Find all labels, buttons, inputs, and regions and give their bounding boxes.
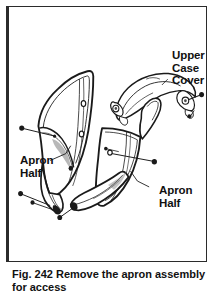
figure-caption-number: Fig. 242 [12, 268, 53, 280]
part-apron-half-left [18, 71, 93, 214]
figure-caption: Fig. 242Remove the apron assembly for ac… [12, 268, 207, 294]
figure-frame: Upper Case Cover Apron Half Apron Half [6, 6, 207, 262]
label-upper-case-cover: Upper Case Cover [172, 49, 205, 87]
label-apron-half-left: Apron Half [20, 154, 53, 179]
label-apron-half-right: Apron Half [159, 184, 192, 209]
apron-assembly-illustration [9, 7, 206, 261]
